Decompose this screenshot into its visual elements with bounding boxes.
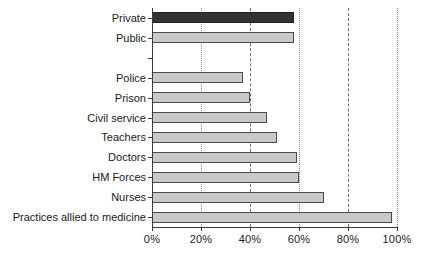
bar-private [152, 12, 294, 23]
bar-chart: PrivatePublicPolicePrisonCivil serviceTe… [0, 0, 428, 257]
x-tick-100 [397, 227, 398, 231]
bar-police [152, 72, 243, 83]
x-tick-80 [348, 227, 349, 231]
y-axis-label-nurses: Nurses [111, 191, 146, 203]
x-tick-60 [299, 227, 300, 231]
bar-practices-allied-to-medicine [152, 212, 392, 223]
x-axis-label-100: 100% [367, 233, 427, 245]
bar-public [152, 32, 294, 43]
y-axis-label-civil-service: Civil service [87, 112, 146, 124]
y-axis-label-police: Police [116, 72, 146, 84]
y-axis-label-doctors: Doctors [108, 151, 146, 163]
x-axis-line [152, 227, 398, 228]
x-tick-40 [250, 227, 251, 231]
bar-hm-forces [152, 172, 299, 183]
bar-teachers [152, 132, 277, 143]
x-tick-0 [152, 227, 153, 231]
y-axis-label-prison: Prison [115, 92, 146, 104]
y-axis-label-teachers: Teachers [101, 131, 146, 143]
x-tick-20 [201, 227, 202, 231]
gridline-80 [348, 8, 349, 227]
y-axis-line [152, 8, 153, 227]
bar-doctors [152, 152, 297, 163]
y-axis-label-public: Public [116, 32, 146, 44]
y-axis-label-hm-forces: HM Forces [92, 171, 146, 183]
bar-prison [152, 92, 250, 103]
y-axis-label-private: Private [112, 12, 146, 24]
y-axis-label-practices-allied-to-medicine: Practices allied to medicine [13, 211, 146, 223]
bar-nurses [152, 192, 324, 203]
bar-civil-service [152, 112, 267, 123]
gridline-100 [397, 8, 398, 227]
